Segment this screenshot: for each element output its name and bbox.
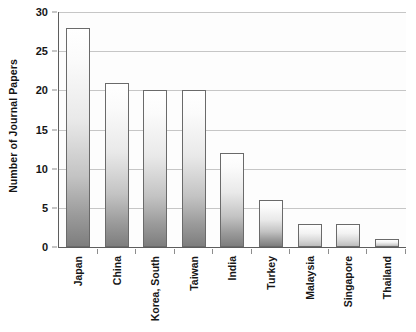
bar[interactable]: [143, 90, 167, 247]
x-tick-label: India: [226, 256, 238, 281]
x-tick-label: Korea, South: [149, 256, 161, 321]
bar[interactable]: [220, 153, 244, 247]
x-tick-label: Thailand: [381, 256, 393, 299]
x-tick-label-slot: Turkey: [251, 254, 290, 332]
bar[interactable]: [66, 28, 90, 247]
y-tick-mark: [52, 12, 57, 13]
y-tick-label: 15: [36, 124, 48, 136]
x-tick-label-slot: Thailand: [366, 254, 405, 332]
y-tick-mark: [52, 129, 57, 130]
x-tick-label-slot: Korea, South: [135, 254, 174, 332]
bars-layer: [59, 12, 406, 247]
y-tick-mark: [52, 90, 57, 91]
x-tick-label-slot: India: [212, 254, 251, 332]
y-axis-title-text: Number of Journal Papers: [7, 59, 19, 193]
y-tick-mark: [52, 247, 57, 248]
bar[interactable]: [259, 200, 283, 247]
bar[interactable]: [336, 224, 360, 248]
x-tick-mark: [405, 249, 406, 254]
bar-slot: [59, 12, 98, 247]
bar[interactable]: [105, 83, 129, 248]
x-tick-label: Malaysia: [304, 256, 316, 300]
x-tick-label: China: [111, 256, 123, 285]
bar-slot: [175, 12, 214, 247]
y-axis-title: Number of Journal Papers: [0, 0, 26, 252]
x-tick-label-slot: Singapore: [328, 254, 367, 332]
bar-chart: Number of Journal Papers 051015202530 Ja…: [0, 0, 416, 332]
y-tick-label: 20: [36, 84, 48, 96]
y-tick-label: 0: [42, 241, 48, 253]
x-tick-label: Japan: [72, 256, 84, 286]
x-tick-label: Turkey: [265, 256, 277, 290]
y-tick-label: 10: [36, 163, 48, 175]
bar-slot: [290, 12, 329, 247]
y-tick-label: 5: [42, 202, 48, 214]
y-tick-label: 30: [36, 6, 48, 18]
y-tick-mark: [52, 51, 57, 52]
x-axis-tick-labels: JapanChinaKorea, SouthTaiwanIndiaTurkeyM…: [58, 254, 405, 332]
y-tick-mark: [52, 207, 57, 208]
bar-slot: [252, 12, 291, 247]
x-tick-label-slot: China: [97, 254, 136, 332]
bar-slot: [213, 12, 252, 247]
x-tick-label-slot: Japan: [58, 254, 97, 332]
bar[interactable]: [375, 239, 399, 247]
bar[interactable]: [182, 90, 206, 247]
bar[interactable]: [298, 224, 322, 248]
bar-slot: [329, 12, 368, 247]
y-tick-label: 25: [36, 45, 48, 57]
x-tick-label: Singapore: [342, 256, 354, 307]
y-axis-tick-labels: 051015202530: [26, 0, 52, 252]
bar-slot: [98, 12, 137, 247]
x-tick-label-slot: Taiwan: [174, 254, 213, 332]
bar-slot: [136, 12, 175, 247]
bar-slot: [367, 12, 406, 247]
y-tick-mark: [52, 168, 57, 169]
plot-area: [58, 12, 406, 248]
x-tick-label: Taiwan: [188, 256, 200, 291]
x-tick-label-slot: Malaysia: [289, 254, 328, 332]
